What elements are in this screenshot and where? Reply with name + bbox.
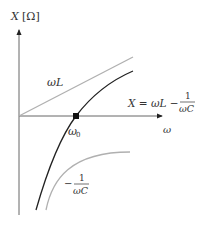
reactance-diagram: X [Ω] ω ωL X = ωL − 1 ωC ω 0 − 1 ωC (0, 0, 208, 228)
capacitive-label-den: ωC (73, 185, 89, 196)
total-label-den: ωC (179, 103, 195, 114)
capacitive-reactance-curve (46, 152, 130, 210)
total-label-lhs: X = ωL − (127, 97, 179, 109)
resonance-subscript: 0 (76, 131, 80, 139)
y-axis-label-var: X (10, 10, 20, 23)
total-label-num: 1 (185, 91, 191, 101)
capacitive-label-num: 1 (79, 173, 85, 183)
resonance-point (73, 113, 79, 119)
inductive-label: ωL (47, 76, 63, 89)
x-axis-label: ω (163, 124, 171, 135)
inductive-reactance-line (19, 57, 133, 116)
capacitive-label-sign: − (64, 178, 72, 189)
y-axis-label-unit: [Ω] (22, 10, 40, 23)
